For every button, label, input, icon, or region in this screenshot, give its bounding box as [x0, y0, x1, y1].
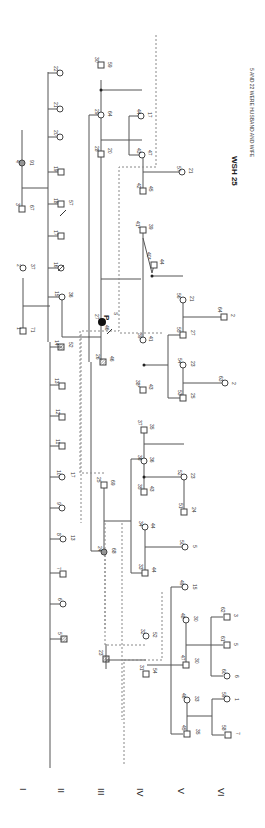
- individual-label: 63: [218, 376, 224, 382]
- individual-55[interactable]: [180, 332, 186, 338]
- individual-label: 41*: [135, 221, 141, 229]
- individual-label: 33: [138, 564, 144, 570]
- pedigree-line: [105, 523, 146, 645]
- individual-8[interactable]: [60, 536, 66, 542]
- mating-node-dot: [143, 476, 146, 479]
- generation-label-V: V: [176, 788, 186, 794]
- individual-label: 52: [152, 632, 158, 638]
- individual-label: 2: [231, 382, 237, 385]
- individual-label: 21: [189, 296, 195, 302]
- individual-label: 48: [180, 613, 186, 619]
- individual-12[interactable]: [59, 414, 65, 420]
- individual-label: 45: [148, 186, 154, 192]
- individual-label: 7: [235, 732, 241, 735]
- individual-label: 36: [68, 292, 74, 298]
- label-age: 67: [29, 205, 35, 211]
- label-age: 91: [29, 160, 35, 166]
- individual-label: 30: [194, 658, 200, 664]
- individual-37[interactable]: [141, 427, 147, 433]
- individual-label: 61: [220, 636, 226, 642]
- individual-62[interactable]: [224, 614, 230, 620]
- individual-28[interactable]: [98, 151, 104, 157]
- individual-45[interactable]: [184, 731, 190, 737]
- individual-label: 52: [68, 342, 74, 348]
- pedigree-note: 5 AND 22 WERE HUSBAND AND WIFE: [249, 68, 255, 158]
- generation-label-VI: VI: [216, 788, 226, 797]
- individual-label: 27: [94, 314, 100, 320]
- individual-label: 1: [234, 698, 240, 701]
- individual-label: 35: [137, 484, 143, 490]
- individual-35[interactable]: [141, 489, 147, 495]
- individual-label: 45: [181, 725, 187, 731]
- individual-label: 9: [56, 502, 62, 505]
- individual-26[interactable]: [100, 359, 106, 365]
- individual-label: 42: [136, 183, 142, 189]
- individual-label: 17: [70, 472, 76, 478]
- individual-42[interactable]: [140, 188, 146, 194]
- individual-label: 49: [179, 580, 185, 586]
- individual-label: 46: [181, 693, 187, 699]
- individual-label: 38*: [135, 380, 141, 388]
- individual-25[interactable]: [101, 482, 107, 488]
- individual-5[interactable]: [61, 636, 67, 642]
- individual-label: 8: [56, 533, 62, 536]
- individual-label: 44: [151, 567, 157, 573]
- mating-node-dot: [100, 89, 103, 92]
- individual-label: 18: [53, 198, 59, 204]
- individual-label: 33: [194, 696, 200, 702]
- individual-58[interactable]: [225, 732, 231, 738]
- individual-label: 59: [221, 692, 227, 698]
- individual-label: 35: [149, 424, 155, 430]
- individual-33[interactable]: [142, 570, 148, 576]
- individual-51[interactable]: [181, 509, 187, 515]
- individual-label: 35: [195, 729, 201, 735]
- individual-label: 5: [57, 632, 63, 635]
- individual-label: 58: [221, 725, 227, 731]
- individual-label: 64: [107, 111, 113, 117]
- individual-61[interactable]: [224, 642, 230, 648]
- individual-9[interactable]: [59, 505, 65, 511]
- individual-label: 34: [138, 521, 144, 527]
- individual-40[interactable]: [151, 262, 157, 268]
- individual-label: 11: [55, 439, 61, 444]
- label-id: 2: [16, 264, 22, 267]
- individual-label: 43: [149, 486, 155, 492]
- individual-label: 17: [147, 112, 153, 118]
- generation-label-I: I: [18, 788, 28, 791]
- individual-label: 39: [137, 333, 143, 339]
- pedigree-title: WSH 25: [230, 156, 239, 186]
- individual-label: 23: [190, 473, 196, 479]
- generation-labels: I II III IV V VI: [18, 788, 226, 797]
- individual-53[interactable]: [180, 395, 186, 401]
- individual-label: 68: [111, 548, 117, 554]
- individual-30[interactable]: [98, 62, 104, 68]
- individual-3[interactable]: [19, 206, 25, 212]
- individual-label: 60: [221, 669, 227, 675]
- individual-label: 30: [94, 57, 100, 63]
- individual-31[interactable]: [143, 671, 149, 677]
- mating-node-dot: [151, 275, 154, 278]
- individual-label: 30: [193, 616, 199, 622]
- individual-label: 40*: [146, 252, 152, 260]
- individual-label: 52: [177, 470, 183, 476]
- individual-label: 28: [94, 146, 100, 152]
- label-id: 1: [16, 327, 22, 330]
- individual-label: 46: [109, 356, 115, 362]
- individual-64[interactable]: [221, 314, 227, 320]
- individual-label: 37: [137, 420, 143, 426]
- individual-label: 10: [56, 470, 62, 476]
- individual-label: 13: [70, 535, 76, 541]
- individual-6[interactable]: [60, 601, 66, 607]
- consanguinity-dashed-lines: [80, 35, 162, 765]
- individual-38[interactable]: [140, 387, 146, 393]
- individual-13[interactable]: [59, 383, 65, 389]
- individual-label: 55: [176, 327, 182, 333]
- individual-7[interactable]: [60, 571, 66, 577]
- individual-label: 6: [57, 598, 63, 601]
- individual-label: 17: [53, 230, 59, 236]
- individual-47[interactable]: [183, 662, 189, 668]
- individual-label: 43: [148, 384, 154, 390]
- individual-label: 44: [150, 523, 156, 529]
- label-id: 4: [15, 160, 21, 163]
- individual-23[interactable]: [103, 656, 109, 662]
